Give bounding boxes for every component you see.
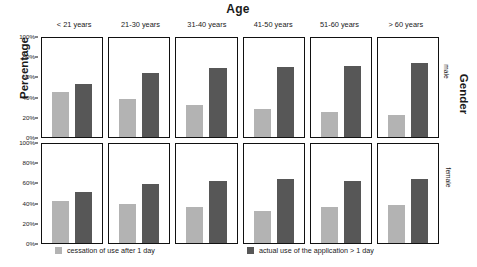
y-tick-label: 60% — [23, 180, 35, 186]
row-strip-female: female — [439, 152, 450, 244]
bar — [119, 99, 136, 137]
bar — [254, 211, 271, 243]
y-tick-label: 40% — [23, 201, 35, 207]
bar — [75, 192, 92, 243]
bar — [277, 179, 294, 243]
panel — [41, 37, 103, 138]
row-strip-female-label: female — [445, 168, 452, 188]
y-tick-mark — [35, 143, 38, 144]
panel — [175, 143, 237, 244]
panel — [41, 143, 103, 244]
column-strip-5: > 60 years — [373, 18, 439, 31]
y-axis-ticks-female: 0%20%40%60%80%100% — [10, 143, 38, 244]
y-tick-label: 100% — [19, 140, 35, 146]
bar-group — [378, 38, 438, 137]
bar — [254, 109, 271, 137]
bar-group — [42, 38, 102, 137]
bar-group — [42, 144, 102, 243]
y-tick-label: 80% — [23, 160, 35, 166]
panel — [108, 37, 170, 138]
bar-group — [109, 144, 169, 243]
y-tick-mark — [35, 97, 38, 98]
panel — [175, 37, 237, 138]
bar-group — [378, 144, 438, 243]
bar — [344, 66, 361, 137]
bar-group — [109, 38, 169, 137]
row-strip-male: male — [439, 46, 450, 138]
y-tick-mark — [35, 223, 38, 224]
faceted-bar-chart: Age Percentage Gender < 21 years 21-30 y… — [0, 0, 477, 267]
panel-row-male — [41, 37, 439, 138]
y-tick-label: 100% — [19, 34, 35, 40]
column-strip-4: 51-60 years — [306, 18, 372, 31]
bar-group — [311, 38, 371, 137]
y-tick-label: 20% — [23, 115, 35, 121]
bar — [52, 201, 69, 243]
y-tick-mark — [35, 57, 38, 58]
bar — [209, 181, 226, 243]
chart-title-age: Age — [36, 2, 440, 16]
y-tick-label: 80% — [23, 54, 35, 60]
panel — [377, 37, 439, 138]
bar-group — [176, 38, 236, 137]
legend-label-actual-use: actual use of the application > 1 day — [259, 246, 374, 255]
column-strip-labels: < 21 years 21-30 years 31-40 years 41-50… — [41, 18, 439, 31]
row-strip-male-label: male — [443, 64, 450, 78]
y-tick-mark — [35, 37, 38, 38]
column-strip-3: 41-50 years — [240, 18, 306, 31]
column-strip-2: 31-40 years — [174, 18, 240, 31]
bar — [209, 68, 226, 137]
panel — [377, 143, 439, 244]
panel — [310, 143, 372, 244]
legend-label-cessation: cessation of use after 1 day — [67, 246, 155, 255]
y-tick-mark — [35, 117, 38, 118]
bar — [119, 204, 136, 243]
bar — [344, 181, 361, 243]
bar — [142, 73, 159, 137]
bar-group — [176, 144, 236, 243]
legend-swatch-actual-use — [247, 247, 254, 254]
y-tick-mark — [35, 138, 38, 139]
y-axis-ticks-male: 0%20%40%60%80%100% — [10, 37, 38, 138]
legend-swatch-cessation — [55, 247, 62, 254]
bar-group — [244, 38, 304, 137]
y-tick-label: 40% — [23, 95, 35, 101]
bar — [277, 67, 294, 137]
bar — [52, 92, 69, 137]
bar — [411, 179, 428, 243]
bar — [388, 115, 405, 137]
y-tick-mark — [35, 244, 38, 245]
panel — [108, 143, 170, 244]
y-tick-mark — [35, 77, 38, 78]
legend-item-actual-use: actual use of the application > 1 day — [247, 246, 374, 255]
panel — [243, 37, 305, 138]
bar-group — [311, 144, 371, 243]
bar — [388, 205, 405, 243]
bar — [186, 207, 203, 243]
y-tick-label: 60% — [23, 74, 35, 80]
bar — [75, 84, 92, 137]
bar — [411, 63, 428, 137]
y-tick-mark — [35, 183, 38, 184]
panel-row-female — [41, 143, 439, 244]
y-tick-label: 20% — [23, 221, 35, 227]
legend: cessation of use after 1 day actual use … — [41, 243, 439, 257]
column-strip-0: < 21 years — [41, 18, 107, 31]
bar — [321, 207, 338, 243]
panel — [310, 37, 372, 138]
right-axis-title-gender: Gender — [458, 34, 470, 154]
bar-group — [244, 144, 304, 243]
y-tick-mark — [35, 163, 38, 164]
column-strip-1: 21-30 years — [107, 18, 173, 31]
y-tick-mark — [35, 203, 38, 204]
y-tick-label: 0% — [26, 241, 35, 247]
legend-item-cessation: cessation of use after 1 day — [55, 246, 155, 255]
bar — [186, 105, 203, 137]
panel — [243, 143, 305, 244]
bar — [142, 184, 159, 243]
bar — [321, 112, 338, 137]
